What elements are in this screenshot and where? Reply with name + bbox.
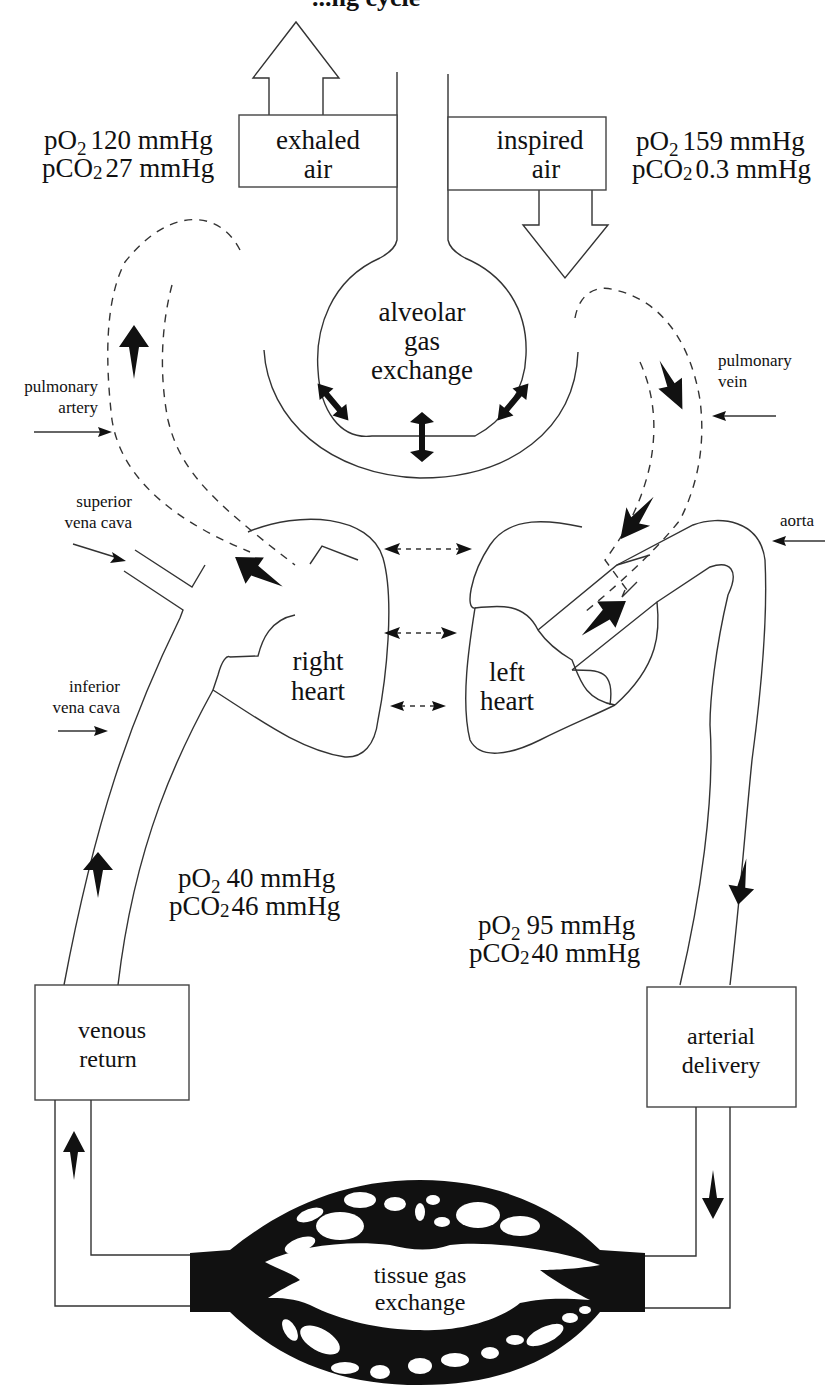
inspired-label-1: inspired bbox=[497, 125, 584, 155]
inferior-vena-cava-pointer-icon bbox=[58, 726, 108, 736]
pulmonary-artery-path bbox=[108, 220, 295, 565]
svg-text:pCO246 mmHg: pCO246 mmHg bbox=[169, 891, 340, 921]
inspired-gas-values: pO2159 mmHg pCO20.3 mmHg bbox=[632, 126, 811, 184]
superior-vena-cava-pointer-icon bbox=[73, 544, 126, 563]
arterial-lower-arrow-icon bbox=[702, 1170, 724, 1219]
exhaled-gas-values: pO2120 mmHg pCO227 mmHg bbox=[42, 125, 214, 183]
inspired-label-2: air bbox=[532, 154, 560, 184]
exchange-arrow-bottom-icon bbox=[410, 412, 434, 462]
venous-gas-values: pO240 mmHg pCO246 mmHg bbox=[169, 863, 340, 921]
exhaled-label-1: exhaled bbox=[276, 125, 360, 155]
svg-text:pCO20.3 mmHg: pCO20.3 mmHg bbox=[632, 154, 811, 184]
superior-vena-cava-label-1: superior bbox=[76, 492, 132, 511]
aorta-pointer-icon bbox=[772, 536, 825, 546]
pulmonary-vein-flow-arrow-icon bbox=[648, 355, 694, 415]
right-heart-outflow-arrow-icon bbox=[226, 544, 290, 602]
gas-exchange-diagram: ...ng cycle exhaled air inspired air pO2… bbox=[0, 0, 828, 1391]
arterial-delivery-label-1: arterial bbox=[687, 1023, 755, 1049]
pulmonary-artery-label-1: pulmonary bbox=[24, 377, 98, 396]
alveolar-label-3: exchange bbox=[371, 355, 473, 385]
pulmonary-vein-to-heart-arrow-icon bbox=[609, 487, 666, 548]
heart-exchange-arrow-bottom-icon bbox=[390, 701, 446, 711]
arterial-gas-values: pO295 mmHg pCO240 mmHg bbox=[469, 910, 640, 968]
pulmonary-vein-label-2: vein bbox=[718, 372, 748, 391]
alveolar-label-2: gas bbox=[404, 326, 440, 356]
heart-exchange-arrow-middle-icon bbox=[384, 627, 457, 639]
pulmonary-vein-label-1: pulmonary bbox=[718, 351, 792, 370]
aorta bbox=[617, 521, 766, 985]
svg-text:pCO240 mmHg: pCO240 mmHg bbox=[469, 938, 640, 968]
right-heart-label-1: right bbox=[293, 646, 344, 676]
left-heart bbox=[466, 522, 658, 754]
pulmonary-artery-flow-arrow-icon bbox=[119, 325, 149, 379]
venous-return-label-2: return bbox=[79, 1046, 136, 1072]
inferior-vena-cava-label-1: inferior bbox=[69, 677, 120, 696]
svg-text:pCO227 mmHg: pCO227 mmHg bbox=[42, 153, 214, 183]
exhaled-arrow-icon bbox=[253, 22, 339, 115]
superior-vena-cava-label-2: vena cava bbox=[65, 513, 133, 532]
pulmonary-vein-pointer-icon bbox=[712, 411, 776, 421]
right-heart-label-2: heart bbox=[291, 676, 345, 706]
inferior-vena-cava-label-2: vena cava bbox=[53, 698, 121, 717]
title-fragment: ...ng cycle bbox=[312, 0, 420, 12]
tissue-label-2: exchange bbox=[375, 1289, 466, 1315]
arterial-delivery-label-2: delivery bbox=[682, 1052, 761, 1078]
aorta-label: aorta bbox=[780, 511, 814, 530]
venous-return-label-1: venous bbox=[78, 1017, 146, 1043]
inspired-arrow-icon bbox=[523, 190, 608, 278]
right-heart bbox=[213, 519, 389, 757]
heart-exchange-arrow-top-icon bbox=[384, 543, 472, 555]
venous-lower-arrow-icon bbox=[63, 1131, 85, 1180]
exhaled-label-2: air bbox=[304, 154, 332, 184]
pulmonary-vein-path bbox=[575, 288, 702, 612]
left-heart-label-2: heart bbox=[480, 686, 534, 716]
pulmonary-artery-pointer-icon bbox=[34, 427, 112, 437]
tissue-label-1: tissue gas bbox=[374, 1262, 467, 1288]
pulmonary-artery-label-2: artery bbox=[58, 398, 98, 417]
alveolar-label-1: alveolar bbox=[379, 297, 466, 327]
left-heart-label-1: left bbox=[489, 657, 525, 687]
